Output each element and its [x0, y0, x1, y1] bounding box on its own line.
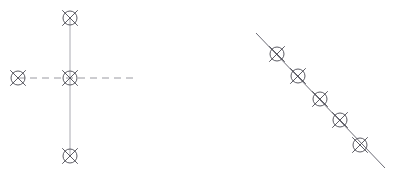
- crossed-circle-icon[interactable]: [62, 10, 78, 26]
- crossed-circle-icon[interactable]: [332, 112, 348, 128]
- cross-configuration-lines: [18, 18, 136, 156]
- crossed-circle-icon[interactable]: [290, 68, 306, 84]
- cross-configuration-markers: [10, 10, 78, 164]
- crossed-circle-icon[interactable]: [10, 70, 26, 86]
- crossed-circle-icon[interactable]: [62, 148, 78, 164]
- lines-layer: [18, 18, 385, 168]
- crossed-circle-icon[interactable]: [352, 137, 368, 153]
- crossed-circle-icon[interactable]: [269, 46, 285, 62]
- crossed-circle-icon[interactable]: [312, 91, 328, 107]
- figure-svg-root: [0, 0, 394, 179]
- markers-layer: [10, 10, 368, 164]
- crossed-circle-icon[interactable]: [62, 70, 78, 86]
- diagram-canvas: [0, 0, 394, 179]
